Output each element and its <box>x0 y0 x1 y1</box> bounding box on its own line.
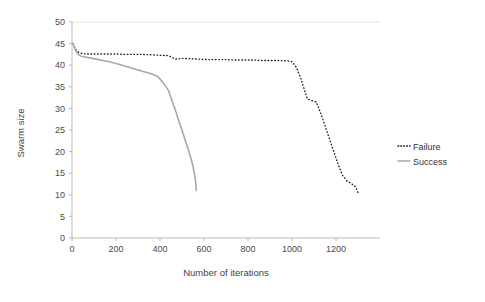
x-tick-label: 1200 <box>326 244 346 254</box>
chart-container: 05101520253035404550 0200400600800100012… <box>0 0 485 302</box>
y-tick-label: 15 <box>55 168 65 178</box>
y-tick-label: 40 <box>55 60 65 70</box>
y-tick-label: 50 <box>55 17 65 27</box>
legend-label-failure: Failure <box>413 142 441 152</box>
legend-label-success: Success <box>413 157 448 167</box>
y-tick-label: 5 <box>60 212 65 222</box>
y-tick-label: 10 <box>55 190 65 200</box>
y-tick-label: 25 <box>55 125 65 135</box>
x-tick-label: 0 <box>69 244 74 254</box>
y-tick-label: 20 <box>55 147 65 157</box>
y-tick-label: 35 <box>55 82 65 92</box>
x-tick-label: 1000 <box>282 244 302 254</box>
x-tick-label: 200 <box>108 244 123 254</box>
y-axis-title: Swarm size <box>15 108 26 157</box>
y-tick-label: 30 <box>55 104 65 114</box>
x-tick-label: 600 <box>196 244 211 254</box>
x-axis-title: Number of iterations <box>183 267 269 278</box>
y-tick-label: 45 <box>55 39 65 49</box>
x-tick-label: 800 <box>240 244 255 254</box>
y-tick-label: 0 <box>60 233 65 243</box>
x-tick-label: 400 <box>152 244 167 254</box>
line-chart: 05101520253035404550 0200400600800100012… <box>0 0 485 302</box>
